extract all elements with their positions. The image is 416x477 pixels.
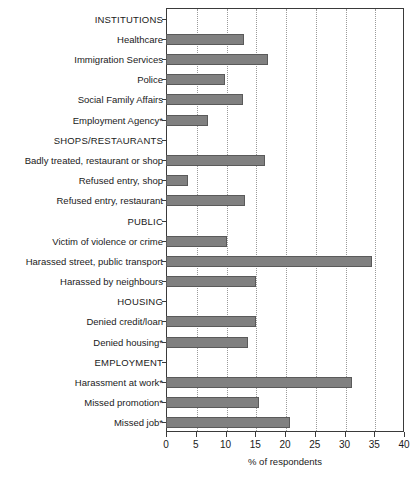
bar — [166, 34, 244, 45]
bar-row: Missed job* — [0, 412, 416, 434]
x-tick-15 — [255, 432, 256, 437]
y-axis-tick — [162, 362, 166, 363]
bar — [166, 54, 268, 65]
bar-row: Denied credit/loan — [0, 311, 416, 333]
row-label: SHOPS/RESTAURANTS — [3, 135, 163, 146]
row-label: Refused entry, restaurant — [3, 195, 163, 206]
group-header-row: HOUSING — [0, 291, 416, 313]
group-header-row: INSTITUTIONS — [0, 8, 416, 30]
bar-row: Social Family Affairs — [0, 89, 416, 111]
category-rows: INSTITUTIONSHealthcareImmigration Servic… — [0, 8, 416, 432]
group-header-row: SHOPS/RESTAURANTS — [0, 129, 416, 151]
bar — [166, 94, 243, 105]
bar-chart: INSTITUTIONSHealthcareImmigration Servic… — [0, 0, 416, 477]
row-label: EMPLOYMENT — [3, 357, 163, 368]
bar-row: Refused entry, restaurant — [0, 190, 416, 212]
x-tick-35 — [374, 432, 375, 437]
row-label: Badly treated, restaurant or shop — [3, 155, 163, 166]
row-label: Social Family Affairs — [3, 94, 163, 105]
bar — [166, 236, 227, 247]
x-tick-label: 25 — [300, 439, 330, 450]
row-label: Harassment at work* — [3, 377, 163, 388]
bar-row: Denied housing* — [0, 331, 416, 353]
bar-row: Immigration Services — [0, 48, 416, 70]
bar-row: Harassed by neighbours — [0, 270, 416, 292]
x-axis: 0510152025303540 — [166, 432, 404, 433]
x-tick-label: 15 — [240, 439, 270, 450]
y-axis-tick — [162, 301, 166, 302]
x-tick-30 — [345, 432, 346, 437]
bar — [166, 74, 225, 85]
y-axis-tick — [162, 19, 166, 20]
row-label: Police — [3, 74, 163, 85]
x-tick-label: 10 — [211, 439, 241, 450]
x-tick-20 — [285, 432, 286, 437]
y-axis-tick — [162, 140, 166, 141]
bar — [166, 195, 245, 206]
bar — [166, 397, 259, 408]
row-label: Harassed by neighbours — [3, 276, 163, 287]
bar-row: Badly treated, restaurant or shop — [0, 149, 416, 171]
x-tick-label: 35 — [359, 439, 389, 450]
bar — [166, 417, 290, 428]
bar — [166, 155, 265, 166]
row-label: Missed promotion* — [3, 397, 163, 408]
bar — [166, 175, 188, 186]
x-tick-40 — [404, 432, 405, 437]
bar-row: Police — [0, 69, 416, 91]
bar-row: Employment Agency* — [0, 109, 416, 131]
row-label: Employment Agency* — [3, 115, 163, 126]
bar — [166, 377, 352, 388]
bar-row: Refused entry, shop — [0, 170, 416, 192]
bar — [166, 256, 372, 267]
x-tick-label: 40 — [389, 439, 416, 450]
row-label: Healthcare — [3, 34, 163, 45]
bar — [166, 276, 256, 287]
bar-row: Harassed street, public transport — [0, 250, 416, 272]
group-header-row: PUBLIC — [0, 210, 416, 232]
x-tick-0 — [166, 432, 167, 437]
row-label: Victim of violence or crime — [3, 236, 163, 247]
row-label: HOUSING — [3, 296, 163, 307]
x-tick-10 — [226, 432, 227, 437]
row-label: Missed job* — [3, 417, 163, 428]
group-header-row: EMPLOYMENT — [0, 351, 416, 373]
row-label: Refused entry, shop — [3, 175, 163, 186]
x-tick-label: 20 — [270, 439, 300, 450]
bar — [166, 337, 248, 348]
bar-row: Harassment at work* — [0, 371, 416, 393]
bar-row: Missed promotion* — [0, 392, 416, 414]
row-label: Immigration Services — [3, 54, 163, 65]
bar-row: Healthcare — [0, 28, 416, 50]
x-axis-title: % of respondents — [166, 456, 404, 467]
x-tick-25 — [315, 432, 316, 437]
row-label: Denied credit/loan — [3, 316, 163, 327]
row-label: Denied housing* — [3, 337, 163, 348]
row-label: INSTITUTIONS — [3, 14, 163, 25]
y-axis-tick — [162, 221, 166, 222]
x-tick-label: 30 — [330, 439, 360, 450]
x-tick-label: 0 — [151, 439, 181, 450]
bar-row: Victim of violence or crime — [0, 230, 416, 252]
bar — [166, 115, 208, 126]
row-label: PUBLIC — [3, 216, 163, 227]
x-tick-5 — [196, 432, 197, 437]
row-label: Harassed street, public transport — [3, 256, 163, 267]
bar — [166, 316, 256, 327]
x-tick-label: 5 — [181, 439, 211, 450]
